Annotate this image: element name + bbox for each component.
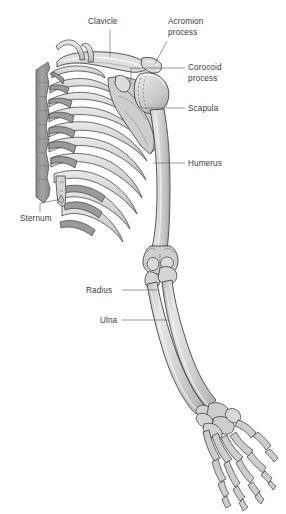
skeleton-diagram: [0, 0, 286, 514]
label-ulna: Ulna: [100, 316, 117, 327]
label-scapula: Scapula: [188, 104, 218, 115]
label-acromion-process-line2: process: [168, 28, 197, 39]
label-corocoid-process-line2: process: [188, 74, 217, 85]
label-clavicle: Clavicle: [88, 17, 117, 28]
sternum-bone: [56, 176, 66, 206]
label-sternum: Sternum: [20, 214, 52, 225]
label-radius: Radius: [86, 286, 112, 297]
label-humerus: Humerus: [188, 159, 222, 170]
label-acromion-process-line1: Acromion: [168, 17, 203, 28]
label-corocoid-process-line1: Corocoid: [188, 63, 222, 74]
